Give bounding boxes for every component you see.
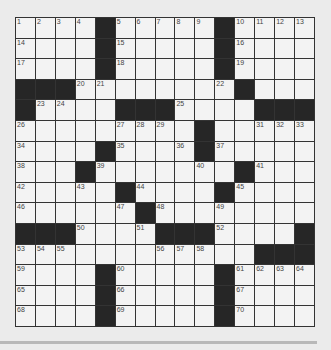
grid-cell[interactable] [215, 245, 234, 265]
grid-cell[interactable]: 51 [136, 224, 155, 244]
grid-cell[interactable] [295, 203, 314, 223]
grid-cell[interactable]: 2 [36, 18, 55, 38]
grid-cell[interactable]: 50 [76, 224, 95, 244]
grid-cell[interactable] [295, 142, 314, 162]
grid-cell[interactable]: 20 [76, 80, 95, 100]
grid-cell[interactable]: 36 [175, 142, 194, 162]
grid-cell[interactable]: 46 [16, 203, 35, 223]
grid-cell[interactable] [175, 203, 194, 223]
grid-cell[interactable]: 11 [255, 18, 274, 38]
grid-cell[interactable] [175, 306, 194, 326]
grid-cell[interactable] [76, 142, 95, 162]
grid-cell[interactable] [36, 59, 55, 79]
grid-cell[interactable] [76, 203, 95, 223]
grid-cell[interactable] [156, 39, 175, 59]
grid-cell[interactable] [36, 286, 55, 306]
grid-cell[interactable] [36, 183, 55, 203]
grid-cell[interactable]: 52 [215, 224, 234, 244]
grid-cell[interactable]: 15 [116, 39, 135, 59]
grid-cell[interactable] [295, 306, 314, 326]
grid-cell[interactable] [215, 162, 234, 182]
grid-cell[interactable] [136, 80, 155, 100]
grid-cell[interactable]: 49 [215, 203, 234, 223]
grid-cell[interactable] [56, 183, 75, 203]
grid-cell[interactable] [136, 265, 155, 285]
grid-cell[interactable]: 53 [16, 245, 35, 265]
grid-cell[interactable] [235, 121, 254, 141]
grid-cell[interactable] [76, 245, 95, 265]
grid-cell[interactable]: 70 [235, 306, 254, 326]
grid-cell[interactable] [255, 183, 274, 203]
grid-cell[interactable] [96, 121, 115, 141]
grid-cell[interactable]: 4 [76, 18, 95, 38]
grid-cell[interactable] [156, 80, 175, 100]
grid-cell[interactable]: 55 [56, 245, 75, 265]
grid-cell[interactable] [76, 121, 95, 141]
grid-cell[interactable]: 58 [195, 245, 214, 265]
grid-cell[interactable] [56, 286, 75, 306]
grid-cell[interactable] [255, 203, 274, 223]
grid-cell[interactable] [215, 121, 234, 141]
grid-cell[interactable] [96, 100, 115, 120]
grid-cell[interactable]: 47 [116, 203, 135, 223]
grid-cell[interactable] [235, 245, 254, 265]
grid-cell[interactable]: 39 [96, 162, 115, 182]
grid-cell[interactable] [56, 121, 75, 141]
grid-cell[interactable] [36, 39, 55, 59]
grid-cell[interactable]: 41 [255, 162, 274, 182]
grid-cell[interactable]: 57 [175, 245, 194, 265]
grid-cell[interactable] [136, 245, 155, 265]
grid-cell[interactable]: 38 [16, 162, 35, 182]
grid-cell[interactable] [136, 59, 155, 79]
grid-cell[interactable] [96, 245, 115, 265]
grid-cell[interactable] [156, 183, 175, 203]
grid-cell[interactable] [255, 286, 274, 306]
grid-cell[interactable] [156, 265, 175, 285]
grid-cell[interactable] [36, 121, 55, 141]
grid-cell[interactable] [275, 142, 294, 162]
grid-cell[interactable] [96, 203, 115, 223]
grid-cell[interactable] [235, 203, 254, 223]
grid-cell[interactable] [275, 224, 294, 244]
grid-cell[interactable] [96, 183, 115, 203]
grid-cell[interactable] [195, 306, 214, 326]
grid-cell[interactable]: 37 [215, 142, 234, 162]
grid-cell[interactable]: 18 [116, 59, 135, 79]
grid-cell[interactable]: 31 [255, 121, 274, 141]
grid-cell[interactable] [156, 59, 175, 79]
grid-cell[interactable] [275, 306, 294, 326]
grid-cell[interactable]: 5 [116, 18, 135, 38]
grid-cell[interactable] [295, 183, 314, 203]
grid-cell[interactable] [116, 80, 135, 100]
grid-cell[interactable] [36, 203, 55, 223]
grid-cell[interactable] [175, 121, 194, 141]
grid-cell[interactable] [275, 183, 294, 203]
grid-cell[interactable]: 61 [235, 265, 254, 285]
grid-cell[interactable] [275, 286, 294, 306]
grid-cell[interactable]: 3 [56, 18, 75, 38]
grid-cell[interactable] [76, 306, 95, 326]
grid-cell[interactable]: 63 [275, 265, 294, 285]
grid-cell[interactable]: 44 [136, 183, 155, 203]
grid-cell[interactable] [116, 162, 135, 182]
grid-cell[interactable] [36, 162, 55, 182]
grid-cell[interactable]: 24 [56, 100, 75, 120]
grid-cell[interactable]: 56 [156, 245, 175, 265]
grid-cell[interactable] [136, 39, 155, 59]
grid-cell[interactable] [195, 203, 214, 223]
grid-cell[interactable]: 1 [16, 18, 35, 38]
grid-cell[interactable] [175, 183, 194, 203]
grid-cell[interactable]: 43 [76, 183, 95, 203]
grid-cell[interactable] [96, 224, 115, 244]
grid-cell[interactable] [76, 59, 95, 79]
grid-cell[interactable] [156, 162, 175, 182]
grid-cell[interactable] [195, 265, 214, 285]
grid-cell[interactable] [56, 59, 75, 79]
grid-cell[interactable] [235, 142, 254, 162]
grid-cell[interactable] [255, 224, 274, 244]
grid-cell[interactable]: 62 [255, 265, 274, 285]
grid-cell[interactable] [56, 162, 75, 182]
grid-cell[interactable] [195, 100, 214, 120]
grid-cell[interactable]: 32 [275, 121, 294, 141]
grid-cell[interactable] [235, 100, 254, 120]
